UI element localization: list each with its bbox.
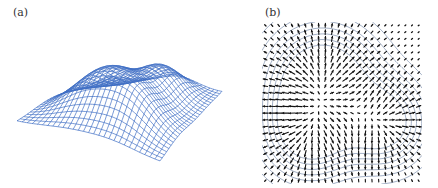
vector-arrow bbox=[378, 31, 380, 33]
vector-arrow bbox=[391, 52, 393, 54]
vector-arrow bbox=[405, 180, 406, 182]
arrow-head bbox=[311, 161, 314, 163]
vector-arrow bbox=[365, 24, 367, 26]
arrow-head bbox=[324, 56, 327, 58]
arrow-head bbox=[296, 98, 298, 101]
arrow-head bbox=[332, 98, 334, 101]
arrow-head bbox=[317, 49, 320, 51]
arrow-head bbox=[311, 148, 314, 150]
vector-arrow bbox=[278, 24, 280, 26]
vector-arrow bbox=[371, 112, 372, 114]
arrow-head bbox=[275, 119, 277, 122]
arrow-head bbox=[282, 119, 284, 122]
vector-arrow bbox=[412, 45, 413, 46]
vector-arrow bbox=[418, 166, 420, 168]
vector-arrow bbox=[385, 38, 387, 39]
arrow-head bbox=[269, 98, 271, 101]
vector-arrow bbox=[352, 179, 353, 182]
arrow-head bbox=[371, 167, 374, 169]
arrow-head bbox=[371, 161, 374, 163]
arrow-head bbox=[311, 141, 314, 143]
arrow-head bbox=[317, 23, 320, 25]
arrow-head bbox=[324, 49, 327, 51]
vector-arrow bbox=[364, 31, 366, 33]
vector-arrow bbox=[385, 32, 386, 33]
vector-arrow bbox=[318, 92, 319, 94]
arrow-head bbox=[324, 36, 327, 38]
arrow-head bbox=[296, 112, 298, 115]
vector-arrow bbox=[418, 159, 420, 161]
vector-arrow bbox=[371, 31, 373, 33]
vector-arrow bbox=[384, 51, 386, 53]
arrow-head bbox=[377, 154, 380, 156]
vector-arrow bbox=[412, 25, 413, 26]
vector-arrow bbox=[265, 180, 266, 181]
arrow-head bbox=[311, 155, 314, 157]
arrow-head bbox=[289, 105, 291, 108]
vector-arrow bbox=[411, 65, 412, 67]
arrow-head bbox=[269, 105, 271, 108]
arrow-head bbox=[351, 134, 354, 136]
vector-arrow bbox=[271, 31, 273, 33]
vector-arrow bbox=[278, 31, 280, 33]
wireframe-mesh bbox=[17, 64, 222, 161]
arrow-head bbox=[357, 173, 360, 175]
vector-arrow bbox=[398, 58, 400, 60]
arrow-head bbox=[263, 119, 265, 122]
arrow-head bbox=[392, 119, 394, 122]
arrow-head bbox=[377, 173, 380, 175]
arrow-head bbox=[345, 105, 347, 108]
arrow-head bbox=[378, 141, 381, 143]
arrow-head bbox=[317, 36, 320, 38]
arrow-head bbox=[364, 167, 367, 169]
vector-arrow bbox=[384, 45, 386, 47]
vector-arrow bbox=[358, 106, 360, 108]
arrow-head bbox=[269, 119, 271, 122]
arrow-head bbox=[296, 105, 298, 108]
arrow-head bbox=[275, 105, 277, 108]
vector-arrow bbox=[398, 180, 399, 182]
vector-arrow bbox=[411, 173, 412, 175]
vector-arrow bbox=[391, 32, 392, 33]
arrow-head bbox=[275, 112, 277, 115]
vector-arrow bbox=[418, 173, 419, 175]
arrow-head bbox=[371, 154, 374, 156]
vector-arrow bbox=[372, 119, 373, 121]
vector-arrow bbox=[378, 38, 380, 40]
mesh-line-u bbox=[40, 82, 175, 139]
vector-arrow bbox=[405, 45, 406, 46]
vector-arrow bbox=[418, 52, 419, 53]
arrow-head bbox=[357, 154, 360, 156]
vector-arrow bbox=[412, 39, 413, 40]
vector-field-plot bbox=[262, 22, 422, 184]
vector-arrow bbox=[412, 32, 413, 33]
vector-arrow bbox=[418, 65, 419, 66]
vector-arrow bbox=[405, 173, 406, 175]
vector-arrow bbox=[398, 52, 400, 53]
mesh-line-v bbox=[22, 77, 114, 122]
arrow-head bbox=[357, 141, 360, 143]
vector-arrow bbox=[418, 72, 420, 74]
vector-arrow bbox=[405, 65, 407, 67]
arrow-head bbox=[371, 173, 374, 175]
arrow-head bbox=[371, 141, 374, 143]
vector-arrow bbox=[324, 106, 326, 107]
vector-arrow bbox=[311, 112, 314, 113]
vector-arrow bbox=[265, 173, 267, 175]
arrow-head bbox=[357, 161, 360, 163]
vector-arrow bbox=[411, 166, 413, 168]
vector-arrow bbox=[418, 59, 419, 60]
arrow-head bbox=[406, 119, 408, 122]
arrow-head bbox=[419, 125, 421, 128]
arrow-head bbox=[311, 105, 313, 108]
vector-arrow bbox=[264, 38, 266, 40]
arrow-head bbox=[419, 119, 421, 122]
vector-arrow bbox=[398, 173, 399, 176]
vector-arrow bbox=[405, 58, 407, 60]
vector-arrow bbox=[318, 106, 319, 107]
arrow-head bbox=[324, 30, 327, 32]
arrow-head bbox=[357, 167, 360, 169]
vector-arrow bbox=[411, 59, 412, 60]
vector-arrow bbox=[405, 32, 406, 33]
vector-arrow bbox=[391, 45, 393, 46]
